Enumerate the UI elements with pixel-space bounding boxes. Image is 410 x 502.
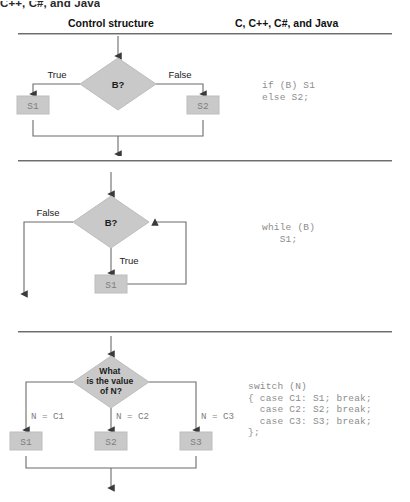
divider-top [18,33,392,35]
statement-box-label: S3 [190,437,202,448]
divider-middle [18,160,392,162]
case-label-2: N = C2 [116,411,149,422]
cropped-caption-fragment: C++, C#, and Java [0,0,100,9]
flow-diagram-if-else: B? True False S1 S2 [0,36,240,156]
code-block-if-else: if (B) S1 else S2; [262,80,315,103]
column-header-control-structure: Control structure [68,17,154,29]
decision-label: B? [112,79,125,90]
decision-label-line-1: What [99,366,120,376]
branch-label-true: True [119,255,138,266]
code-block-switch: switch (N) { case C1: S1; break; case C2… [248,381,372,439]
case-label-1: N = C1 [31,411,65,422]
statement-box-label: S1 [105,280,117,291]
flow-diagram-switch: What is the value of N? N = C1 N = C2 N … [0,336,240,502]
branch-label-true: True [47,69,66,80]
branch-label-false: False [168,69,191,80]
divider-bottom [18,331,392,333]
code-block-while: while (B) S1; [262,222,315,245]
statement-box-label: S2 [197,101,209,112]
flowchart-reference-page: C++, C#, and Java Control structure C, C… [0,0,410,502]
statement-box-label: S2 [105,437,117,448]
statement-box-label: S1 [20,437,32,448]
statement-box-label: S1 [27,101,39,112]
case-label-3: N = C3 [201,411,234,422]
flow-diagram-while: B? False True S1 [0,172,240,322]
decision-label-line-3: of N? [100,386,122,396]
decision-label: B? [105,217,118,228]
branch-label-false: False [36,207,59,218]
column-header-languages: C, C++, C#, and Java [235,17,338,29]
decision-label-line-2: is the value [86,376,133,386]
